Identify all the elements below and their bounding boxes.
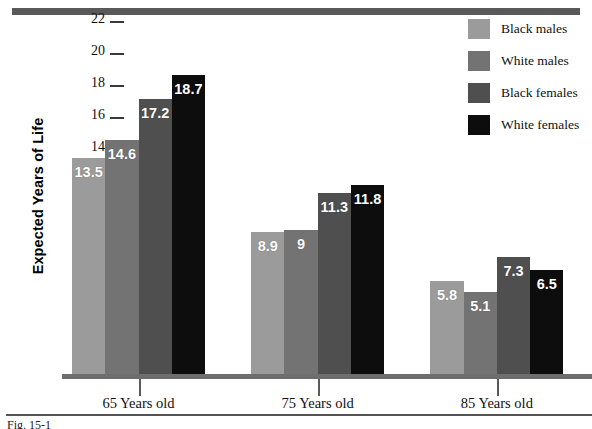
bar[interactable]: 11.3 bbox=[318, 193, 351, 374]
figure-caption: Fig. 15-1 bbox=[7, 419, 51, 429]
bar-value-label: 8.9 bbox=[251, 239, 284, 254]
x-axis-category-label: 65 Years old bbox=[79, 396, 199, 411]
bar[interactable]: 9 bbox=[284, 230, 317, 374]
bar[interactable]: 7.3 bbox=[497, 257, 530, 374]
bar-value-label: 5.1 bbox=[464, 299, 497, 314]
x-axis-baseline bbox=[62, 374, 592, 379]
bar[interactable]: 11.8 bbox=[351, 185, 384, 374]
bar[interactable]: 5.1 bbox=[464, 292, 497, 374]
bottom-divider-rule bbox=[6, 414, 592, 416]
bar[interactable]: 6.5 bbox=[530, 270, 563, 374]
bar[interactable]: 17.2 bbox=[139, 99, 172, 374]
bar[interactable]: 18.7 bbox=[172, 75, 205, 374]
bar-groups: 13.514.617.218.78.9911.311.85.85.17.36.5 bbox=[72, 22, 592, 374]
bar[interactable]: 13.5 bbox=[72, 158, 105, 374]
plot-area: 0246810121416182022 13.514.617.218.78.99… bbox=[62, 22, 592, 374]
bar[interactable]: 5.8 bbox=[430, 281, 463, 374]
bar-group: 5.85.17.36.5 bbox=[430, 22, 563, 374]
bar-value-label: 11.3 bbox=[318, 200, 351, 215]
bar-value-label: 17.2 bbox=[139, 106, 172, 121]
y-axis-title: Expected Years of Life bbox=[30, 96, 46, 296]
bar-group: 8.9911.311.8 bbox=[251, 22, 384, 374]
x-axis-separator-tick bbox=[318, 379, 320, 396]
x-axis-category-label: 85 Years old bbox=[437, 396, 557, 411]
bar-value-label: 5.8 bbox=[430, 288, 463, 303]
bar-group: 13.514.617.218.7 bbox=[72, 22, 205, 374]
x-axis-separator-tick bbox=[139, 379, 141, 396]
bar-value-label: 14.6 bbox=[105, 147, 138, 162]
bar-value-label: 9 bbox=[284, 237, 317, 252]
x-axis-category-label: 75 Years old bbox=[258, 396, 378, 411]
x-axis-separator-tick bbox=[497, 379, 499, 396]
bar-value-label: 18.7 bbox=[172, 82, 205, 97]
bar-value-label: 6.5 bbox=[530, 277, 563, 292]
bar-value-label: 13.5 bbox=[72, 165, 105, 180]
bar-value-label: 11.8 bbox=[351, 192, 384, 207]
bar-value-label: 7.3 bbox=[497, 264, 530, 279]
bar[interactable]: 14.6 bbox=[105, 140, 138, 374]
bar[interactable]: 8.9 bbox=[251, 232, 284, 374]
chart-figure: Black malesWhite malesBlack femalesWhite… bbox=[0, 0, 592, 429]
